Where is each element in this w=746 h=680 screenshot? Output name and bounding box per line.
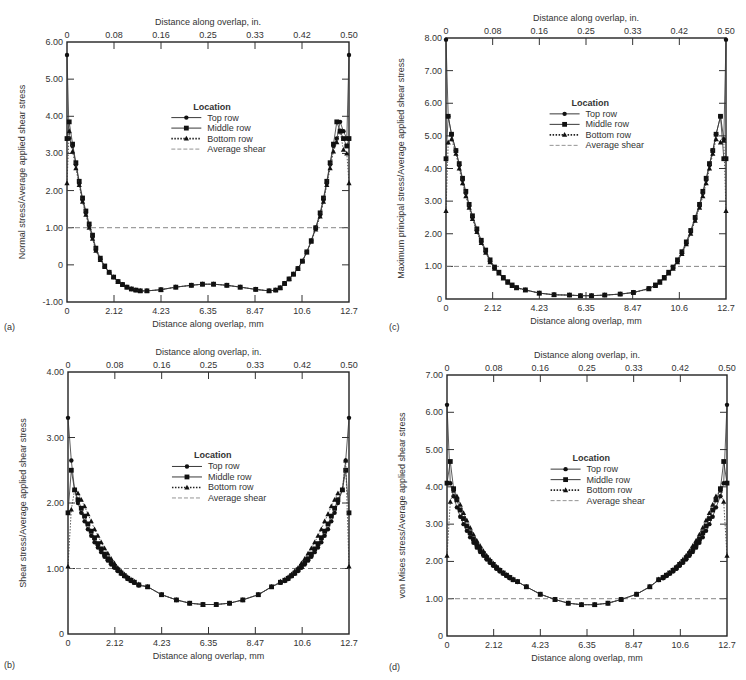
- legend-label: Top row: [587, 464, 619, 474]
- y-tick-label: 7.00: [425, 370, 443, 380]
- legend-title: Location: [194, 450, 232, 460]
- x-tick-label-in: 0.16: [153, 360, 171, 370]
- y-tick-label: 6.00: [45, 37, 63, 47]
- data-point: [67, 119, 72, 124]
- series-line: [446, 139, 726, 296]
- x-tick-label-in: 0.42: [671, 26, 689, 36]
- x-tick-label-in: 0.25: [577, 26, 595, 36]
- y-tick-label: 0: [59, 629, 64, 639]
- series-line: [447, 491, 727, 605]
- y-tick-label: 3.00: [424, 196, 442, 206]
- x-tick-label-mm: 10.6: [671, 303, 689, 313]
- x-tick-label-in: 0: [65, 360, 70, 370]
- legend: LocationTop rowMiddle rowBottom rowAvera…: [550, 98, 644, 151]
- y-axis-label: von Mises stress/Average applied shear s…: [397, 412, 407, 598]
- x-tick-label-in: 0.08: [485, 363, 503, 373]
- data-point: [449, 136, 454, 141]
- data-point: [66, 416, 70, 420]
- x-tick-label-in: 0.25: [199, 30, 217, 40]
- x-tick-label-mm: 2.12: [105, 306, 123, 316]
- x-tick-label-mm: 8.47: [624, 303, 642, 313]
- x-tick-label-in: 0.33: [247, 360, 265, 370]
- data-point: [723, 208, 728, 213]
- data-point: [346, 180, 351, 185]
- data-point: [347, 53, 351, 57]
- y-tick-label: 0: [438, 631, 443, 641]
- panel-label-c: (c): [389, 322, 400, 332]
- y-tick-label: 0: [437, 294, 442, 304]
- x-tick-label-in: 0.42: [293, 360, 311, 370]
- y-tick-label: 7.00: [424, 66, 442, 76]
- x-tick-label-in: 0.50: [340, 30, 358, 40]
- x-tick-label-mm: 2.12: [485, 640, 503, 650]
- x-axis-label: Distance along overlap, mm: [152, 319, 264, 329]
- legend-marker-circle: [185, 464, 189, 468]
- legend-title: Location: [193, 102, 231, 112]
- y-tick-label: 1.00: [425, 594, 443, 604]
- data-point: [331, 149, 336, 154]
- data-point: [725, 403, 729, 407]
- plot-frame: [67, 42, 349, 302]
- data-point: [70, 149, 75, 154]
- legend: LocationTop rowMiddle rowBottom rowAvera…: [172, 450, 266, 503]
- data-point: [322, 519, 327, 524]
- data-point: [721, 499, 726, 504]
- chart-a-svg: 002.120.084.230.166.350.258.470.3310.60.…: [0, 0, 373, 340]
- legend-marker-square: [562, 122, 567, 127]
- legend-label: Top row: [586, 109, 618, 119]
- legend: LocationTop rowMiddle rowBottom rowAvera…: [171, 102, 265, 155]
- series-bottom-row: [443, 136, 728, 297]
- plot-frame: [68, 372, 349, 634]
- chart-panel-a: 002.120.084.230.166.350.258.470.3310.60.…: [0, 0, 373, 340]
- data-point: [444, 37, 448, 41]
- legend-title: Location: [573, 453, 611, 463]
- y-tick-label: 3.00: [45, 148, 63, 158]
- x-tick-label-in: 0: [443, 26, 448, 36]
- y-tick-label: 1.00: [46, 564, 64, 574]
- chart-d-svg: 002.120.084.230.166.350.258.470.3310.60.…: [373, 340, 746, 680]
- x-tick-label-mm: 0: [65, 638, 70, 648]
- x-axis-label: Distance along overlap, mm: [153, 651, 265, 661]
- x-tick-label-mm: 8.47: [246, 306, 264, 316]
- data-point: [724, 553, 729, 558]
- x-tick-label-in: 0.16: [531, 26, 549, 36]
- legend-label: Average shear: [586, 140, 644, 150]
- data-point: [65, 53, 69, 57]
- data-point: [445, 403, 449, 407]
- x-tick-label-mm: 8.47: [625, 640, 643, 650]
- legend-label: Bottom row: [207, 134, 253, 144]
- x-tick-label-mm: 0: [443, 303, 448, 313]
- y-tick-label: 2.00: [424, 229, 442, 239]
- x-tick-label-in: 0.16: [152, 30, 170, 40]
- series-top-row: [66, 416, 351, 607]
- data-point: [468, 530, 473, 535]
- data-point: [704, 524, 709, 529]
- data-point: [328, 160, 333, 165]
- x-tick-label-mm: 2.12: [106, 638, 124, 648]
- legend-marker-square: [563, 477, 568, 482]
- series-line: [67, 55, 349, 291]
- y-tick-label: -1.00: [42, 297, 63, 307]
- legend-marker-circle: [562, 112, 566, 116]
- x-tick-label-in: 0.08: [105, 30, 123, 40]
- x-tick-label-in: 0.33: [246, 30, 264, 40]
- x-tick-label-in: 0: [64, 30, 69, 40]
- chart-panel-b: 002.120.084.230.166.350.258.470.3310.60.…: [0, 340, 373, 680]
- chart-b-svg: 002.120.084.230.166.350.258.470.3310.60.…: [0, 340, 373, 680]
- legend-marker-square: [184, 126, 189, 131]
- x-tick-label-mm: 0: [444, 640, 449, 650]
- x-tick-label-mm: 10.6: [672, 640, 690, 650]
- legend-marker-circle: [563, 467, 567, 471]
- y-tick-label: 0: [58, 260, 63, 270]
- y-tick-label: 3.00: [46, 433, 64, 443]
- data-point: [721, 459, 726, 464]
- data-point: [328, 165, 333, 170]
- legend-label: Average shear: [207, 144, 265, 154]
- data-point: [446, 114, 451, 119]
- x-axis-label-top: Distance along overlap, in.: [533, 13, 639, 23]
- y-tick-label: 2.00: [425, 556, 443, 566]
- legend-label: Middle row: [207, 123, 251, 133]
- data-point: [89, 519, 94, 524]
- x-tick-label-in: 0.50: [717, 26, 735, 36]
- y-tick-label: 4.00: [424, 164, 442, 174]
